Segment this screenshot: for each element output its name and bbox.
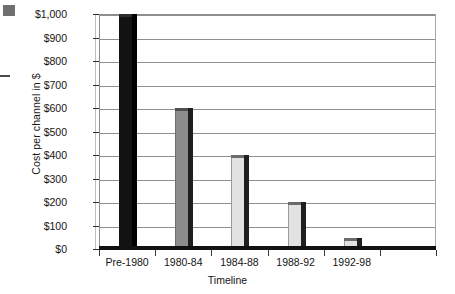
bar-1980-84 — [175, 108, 193, 249]
y-axis-tick-mark — [93, 132, 99, 133]
bar-side-face — [244, 155, 249, 249]
x-axis-tick-mark — [380, 250, 381, 256]
bar-side-face — [188, 108, 193, 249]
y-axis-tick-label: $900 — [3, 32, 67, 44]
y-axis-tick-mark — [93, 38, 99, 39]
y-axis-tick-label: $800 — [3, 55, 67, 67]
y-axis-tick-mark — [93, 179, 99, 180]
y-axis-tick-mark — [93, 85, 99, 86]
y-axis-tick-mark — [93, 226, 99, 227]
gridline — [100, 133, 435, 134]
bar-top-face — [344, 238, 357, 241]
scan-artifact-dash — [0, 75, 10, 77]
y-axis-tick-label: $0 — [3, 243, 67, 255]
bar-face — [175, 111, 188, 249]
x-axis-tick-mark — [211, 250, 212, 256]
y-axis-tick-label: $200 — [3, 196, 67, 208]
y-axis-tick-label: $500 — [3, 126, 67, 138]
gridline — [100, 39, 435, 40]
y-axis-tick-mark — [93, 14, 99, 15]
bar-side-face — [301, 202, 306, 249]
y-axis-tick-label: $100 — [3, 220, 67, 232]
bar-1984-88 — [231, 155, 249, 249]
gridline — [100, 156, 435, 157]
x-axis-tick-label: 1980-84 — [164, 256, 203, 268]
bar-side-face — [132, 14, 137, 249]
x-axis-tick-label: Pre-1980 — [105, 256, 148, 268]
y-axis-tick-mark — [93, 108, 99, 109]
x-axis-tick-label: 1988-92 — [276, 256, 315, 268]
x-axis-tick-mark — [268, 250, 269, 256]
x-axis-tick-mark — [324, 250, 325, 256]
gridline — [100, 86, 435, 87]
bar-face — [231, 158, 244, 249]
x-axis-tick-mark — [436, 250, 437, 256]
y-axis-tick-mark — [93, 155, 99, 156]
bar-top-face — [231, 155, 244, 158]
gridline — [100, 15, 435, 16]
bar-top-face — [288, 202, 301, 205]
bar-pre-1980 — [119, 14, 137, 249]
x-axis-title: Timeline — [0, 274, 455, 286]
chart-screenshot: Cost per channel in $ $1,000$900$800$700… — [0, 0, 455, 294]
y-axis-tick-label: $1,000 — [3, 8, 67, 20]
bar-top-face — [119, 14, 132, 17]
plot-area — [99, 14, 436, 249]
y-axis-tick-label: $400 — [3, 149, 67, 161]
bar-face — [119, 17, 132, 249]
y-axis-tick-mark — [93, 61, 99, 62]
bar-face — [288, 205, 301, 249]
gridline — [100, 203, 435, 204]
bar-top-face — [175, 108, 188, 111]
x-axis-tick-label: 1992-98 — [332, 256, 371, 268]
x-axis-tick-mark — [155, 250, 156, 256]
y-axis-tick-label: $300 — [3, 173, 67, 185]
y-axis-tick-label: $600 — [3, 102, 67, 114]
gridline — [100, 227, 435, 228]
bar-1988-92 — [288, 202, 306, 249]
gridline — [100, 109, 435, 110]
gridline — [100, 62, 435, 63]
gridline — [100, 180, 435, 181]
y-axis-tick-mark — [93, 202, 99, 203]
x-axis-tick-mark — [99, 250, 100, 256]
x-axis-tick-label: 1984-88 — [220, 256, 259, 268]
y-axis-tick-label: $700 — [3, 79, 67, 91]
